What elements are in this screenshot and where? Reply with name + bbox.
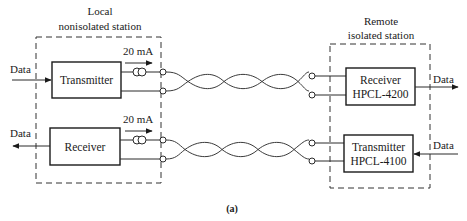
remote-receiver-part: HPCL-4200 [352, 88, 408, 100]
remote-receiver-label: Receiver [360, 74, 401, 86]
current-loop-diagram: Local nonisolated station Data Transmitt… [0, 0, 467, 221]
local-rx-data-label: Data [10, 127, 31, 139]
remote-transmitter: Transmitter HPCL-4100 Data [309, 135, 458, 172]
local-tx-data-label: Data [10, 63, 31, 75]
terminal-icon [160, 137, 166, 143]
local-receiver: Data Receiver 20 mA [10, 113, 166, 165]
local-tx-current-label: 20 mA [123, 45, 153, 57]
local-receiver-label: Receiver [65, 141, 106, 153]
local-station-title-1: Local [87, 5, 112, 17]
remote-transmitter-part: HPCL-4100 [350, 155, 406, 167]
local-station-title-2: nonisolated station [59, 20, 142, 32]
remote-rx-data-label: Data [433, 73, 454, 85]
local-transmitter-label: Transmitter [60, 74, 113, 86]
remote-tx-data-label: Data [433, 139, 454, 151]
terminal-icon [160, 69, 166, 75]
top-twisted-pair [166, 72, 309, 91]
remote-receiver: Receiver HPCL-4200 Data [309, 68, 458, 105]
remote-station: Remote isolated station Receiver HPCL-42… [309, 15, 458, 188]
terminal-icon [160, 156, 166, 162]
remote-station-title-1: Remote [364, 15, 398, 27]
terminal-icon [160, 88, 166, 94]
terminal-icon [309, 140, 315, 146]
terminal-icon [309, 73, 315, 79]
figure-caption: (a) [226, 203, 238, 215]
remote-transmitter-label: Transmitter [352, 141, 405, 153]
local-rx-current-label: 20 mA [123, 113, 153, 125]
remote-station-title-2: isolated station [348, 29, 415, 41]
terminal-icon [309, 158, 315, 164]
local-station: Local nonisolated station Data Transmitt… [10, 5, 166, 183]
bottom-twisted-pair [166, 140, 309, 159]
local-transmitter: Data Transmitter 20 mA [10, 45, 166, 98]
terminal-icon [309, 92, 315, 98]
